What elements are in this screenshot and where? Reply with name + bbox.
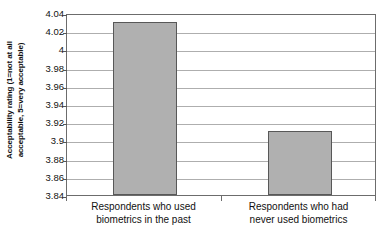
y-axis-tick-label: 3.94 — [28, 100, 64, 110]
bar-chart-figure: Acceptability rating (1=not at all accep… — [0, 0, 392, 233]
y-axis-tick-label: 3.86 — [28, 173, 64, 183]
x-axis-category-label: Respondents who usedbiometrics in the pa… — [66, 200, 221, 226]
y-axis-title: Acceptability rating (1=not at all accep… — [0, 0, 30, 200]
y-axis-title-line-2: acceptable, 5=very acceptable) — [15, 41, 26, 159]
bar — [268, 131, 332, 195]
y-axis-tick-label: 3.98 — [28, 64, 64, 74]
x-axis-category-label: Respondents who hadnever used biometrics — [221, 200, 376, 226]
x-axis-category-label-line: Respondents who used — [66, 200, 221, 213]
bar — [113, 22, 177, 195]
y-axis-title-line-1: Acceptability rating (1=not at all — [4, 41, 15, 159]
y-axis-tick-label: 3.88 — [28, 155, 64, 165]
x-axis-category-labels: Respondents who usedbiometrics in the pa… — [66, 200, 376, 233]
y-axis-tick-label: 3.96 — [28, 82, 64, 92]
x-axis-category-label-line: Respondents who had — [221, 200, 376, 213]
y-axis-tick-label: 3.84 — [28, 191, 64, 201]
x-axis-category-label-line: never used biometrics — [221, 213, 376, 226]
y-axis-tick-label: 4.04 — [28, 9, 64, 19]
bars-layer — [67, 15, 375, 195]
y-axis-tick-label: 4 — [28, 45, 64, 55]
y-axis-tick-labels: 4.044.0243.983.963.943.923.93.883.863.84 — [28, 14, 64, 196]
y-axis-tick-label: 4.02 — [28, 27, 64, 37]
y-axis-tick-label: 3.92 — [28, 118, 64, 128]
y-axis-tick-label: 3.9 — [28, 136, 64, 146]
plot-area — [66, 14, 376, 196]
x-axis-category-label-line: biometrics in the past — [66, 213, 221, 226]
